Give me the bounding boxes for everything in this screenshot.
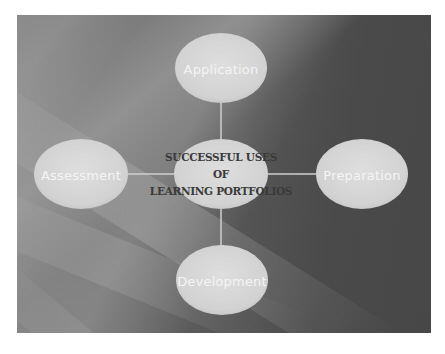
node-label-right: Preparation [323,168,400,183]
slide: Application Assessment Preparation Devel… [17,15,431,333]
node-label-top: Application [184,62,259,77]
center-title: SUCCESSFUL USES OF LEARNING PORTFOLIOS [150,149,292,200]
center-title-line: OF [150,166,292,183]
node-label-left: Assessment [41,168,121,183]
node-label-bottom: Development [177,274,267,289]
center-title-line: LEARNING PORTFOLIOS [150,183,292,200]
center-title-line: SUCCESSFUL USES [150,149,292,166]
